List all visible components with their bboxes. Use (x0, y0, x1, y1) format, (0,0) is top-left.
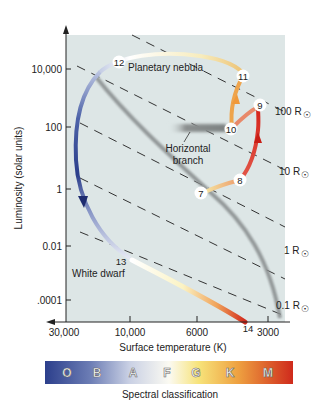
y-tick-0-0001: .0001 (37, 295, 62, 306)
spectral-class-a: A (129, 366, 138, 380)
horizontal-branch-label-line1: Horizontal (165, 143, 210, 154)
y-tick-100: 100 (45, 122, 62, 133)
spectral-class-f: F (163, 366, 170, 380)
stage-11-label: 11 (238, 71, 248, 82)
spectral-class-b: B (93, 366, 102, 380)
spectral-class-m: M (263, 366, 273, 380)
y-tick-10000: 10,000 (31, 64, 62, 75)
x-tick-30000: 30,000 (49, 327, 80, 338)
x-tick-10000: 10,000 (115, 327, 146, 338)
x-tick-6000: 6000 (186, 327, 209, 338)
stage-10-label: 10 (226, 124, 237, 135)
spectral-class-g: G (191, 366, 200, 380)
stage-8-label: 8 (237, 175, 242, 186)
y-tick-0-01: 0.01 (43, 241, 63, 252)
y-axis-arrow-icon (63, 25, 69, 34)
hr-diagram: 7 8 9 10 11 12 13 14 Planetary nebula Ho… (0, 0, 328, 404)
x-axis-arrow-icon (46, 319, 55, 325)
horizontal-branch-band (168, 124, 226, 132)
x-axis-title: Surface temperature (K) (119, 342, 226, 353)
spectral-classification-title: Spectral classification (122, 389, 218, 400)
stage-13-label: 13 (116, 256, 127, 267)
spectral-class-o: O (62, 366, 71, 380)
radius-label-1: 1 R☉ (284, 245, 309, 259)
x-tick-3000: 3000 (257, 327, 280, 338)
white-dwarf-label: White dwarf (72, 268, 125, 279)
horizontal-branch-label-line2: branch (173, 155, 204, 166)
stage-12-label: 12 (114, 57, 125, 68)
y-tick-1: 1 (56, 184, 62, 195)
planetary-nebula-label: Planetary nebula (128, 62, 203, 73)
y-axis-title: Luminosity (solar units) (13, 127, 24, 230)
stage-9-label: 9 (257, 100, 262, 111)
stage-7-label: 7 (198, 188, 203, 199)
spectral-class-k: K (226, 366, 235, 380)
stage-14-label: 14 (243, 323, 254, 334)
